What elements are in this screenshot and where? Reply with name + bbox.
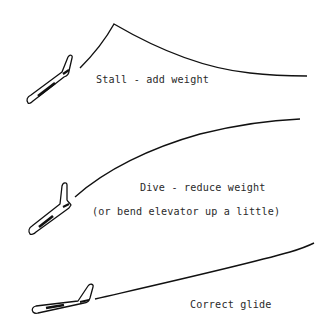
glider-diagram (0, 0, 334, 335)
glide-flight-path (95, 243, 314, 299)
dive-sublabel: (or bend elevator up a little) (92, 205, 280, 218)
dive-glider-icon (29, 183, 71, 235)
stall-glider-icon (27, 55, 72, 103)
glide-glider-icon (32, 284, 93, 313)
dive-label: Dive - reduce weight (140, 181, 266, 194)
stall-flight-path (80, 24, 307, 76)
glide-label: Correct glide (190, 298, 272, 311)
stall-label: Stall - add weight (96, 73, 209, 86)
